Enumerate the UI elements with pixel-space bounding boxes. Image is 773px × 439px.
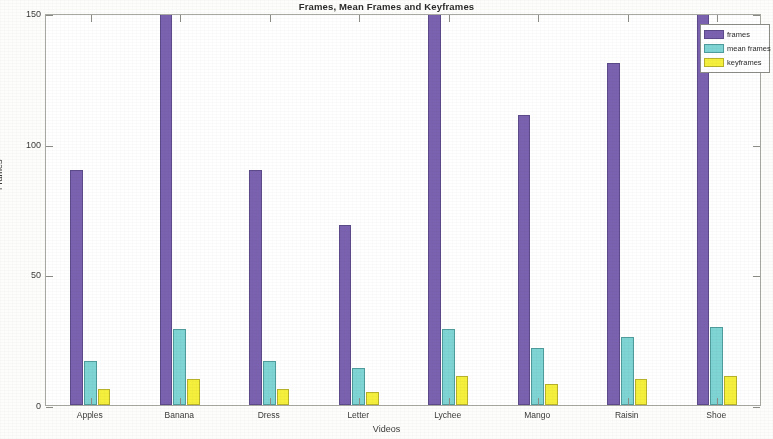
y-axis-tick — [46, 276, 53, 277]
y-axis-tick — [46, 146, 53, 147]
y-tick-label: 100 — [26, 140, 41, 150]
y-axis-tick — [46, 15, 53, 16]
bar-keyframes-dress — [277, 389, 290, 405]
bar-frames-dress — [249, 170, 262, 405]
bar-mean-frames-banana — [173, 329, 186, 405]
legend-swatch-keyframes-icon — [704, 58, 724, 67]
x-axis-tick — [628, 15, 629, 22]
x-tick-label: Apples — [77, 410, 103, 420]
legend-item-frames: frames — [704, 28, 766, 41]
bar-group — [607, 15, 648, 405]
x-axis-tick — [270, 15, 271, 22]
x-tick-label: Lychee — [434, 410, 461, 420]
x-axis-tick — [717, 398, 718, 405]
bar-keyframes-shoe — [724, 376, 737, 405]
legend-label-frames: frames — [727, 30, 750, 39]
bar-group — [697, 15, 738, 405]
y-tick-label: 0 — [36, 401, 41, 411]
bar-mean-frames-mango — [531, 348, 544, 405]
bar-frames-letter — [339, 225, 352, 405]
bar-group — [160, 15, 201, 405]
y-axis-tick — [753, 146, 760, 147]
y-axis-tick — [753, 276, 760, 277]
bar-group — [339, 15, 380, 405]
bar-frames-raisin — [607, 63, 620, 405]
x-axis-tick — [538, 15, 539, 22]
bar-group — [70, 15, 111, 405]
x-axis-label: Videos — [0, 424, 773, 434]
chart-legend: frames mean frames keyframes — [700, 24, 770, 73]
x-axis-tick — [180, 398, 181, 405]
bar-frames-lychee — [428, 15, 441, 405]
chart-figure: Frames, Mean Frames and Keyframes 050100… — [0, 0, 773, 439]
x-tick-label: Raisin — [615, 410, 639, 420]
bar-group — [428, 15, 469, 405]
x-axis-tick — [449, 398, 450, 405]
bar-mean-frames-raisin — [621, 337, 634, 405]
x-tick-label: Letter — [347, 410, 369, 420]
x-tick-label: Banana — [165, 410, 194, 420]
bar-keyframes-raisin — [635, 379, 648, 405]
bar-frames-shoe — [697, 15, 710, 405]
y-axis-label: Frames — [0, 159, 4, 190]
bar-keyframes-lychee — [456, 376, 469, 405]
legend-swatch-mean-frames-icon — [704, 44, 724, 53]
x-axis-tick — [180, 15, 181, 22]
plot-area — [45, 14, 761, 406]
x-tick-label: Dress — [258, 410, 280, 420]
legend-swatch-frames-icon — [704, 30, 724, 39]
legend-label-keyframes: keyframes — [727, 58, 762, 67]
bar-keyframes-mango — [545, 384, 558, 405]
chart-title: Frames, Mean Frames and Keyframes — [0, 1, 773, 12]
x-axis-tick — [628, 398, 629, 405]
y-tick-label: 50 — [31, 270, 41, 280]
legend-item-keyframes: keyframes — [704, 56, 766, 69]
bar-keyframes-banana — [187, 379, 200, 405]
x-axis-tick — [538, 398, 539, 405]
x-axis-tick — [359, 15, 360, 22]
bars-layer — [46, 15, 760, 405]
y-axis-tick — [753, 15, 760, 16]
x-axis-tick — [91, 398, 92, 405]
bar-mean-frames-shoe — [710, 327, 723, 405]
y-axis-tick — [753, 407, 760, 408]
x-axis-tick — [270, 398, 271, 405]
bar-keyframes-letter — [366, 392, 379, 405]
x-axis-tick — [359, 398, 360, 405]
bar-mean-frames-lychee — [442, 329, 455, 405]
bar-group — [249, 15, 290, 405]
x-axis-tick — [91, 15, 92, 22]
bar-group — [518, 15, 559, 405]
x-axis-tick — [449, 15, 450, 22]
y-axis-tick — [46, 407, 53, 408]
bar-frames-mango — [518, 115, 531, 405]
bar-frames-apples — [70, 170, 83, 405]
legend-item-mean-frames: mean frames — [704, 42, 766, 55]
x-tick-label: Mango — [524, 410, 550, 420]
legend-label-mean-frames: mean frames — [727, 44, 771, 53]
x-axis-tick — [717, 15, 718, 22]
bar-frames-banana — [160, 15, 173, 405]
x-tick-label: Shoe — [706, 410, 726, 420]
bar-keyframes-apples — [98, 389, 111, 405]
